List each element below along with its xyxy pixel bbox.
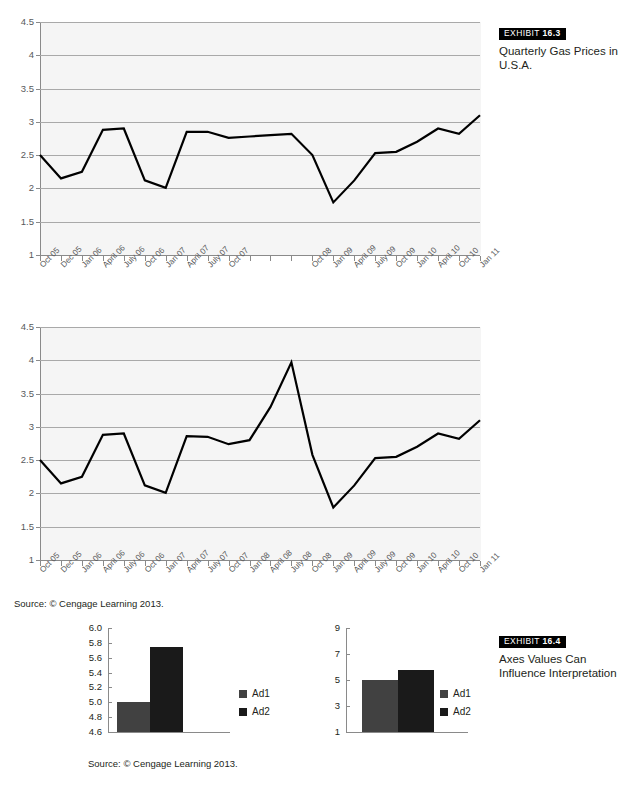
- exhibit-page: EXHIBIT 16.3 Quarterly Gas Prices in U.S…: [0, 0, 635, 785]
- bar1-y-tick-label: 6.0: [78, 623, 102, 633]
- line-chart-quarterly-gas-prices-2: 11.522.533.544.5 Oct 05Dec 05Jan 06April…: [0, 305, 500, 605]
- exhibit-16-3-caption-block: EXHIBIT 16.3 Quarterly Gas Prices in U.S…: [499, 22, 635, 72]
- bar-chart-narrow-horizontal-axis: [108, 732, 230, 733]
- legend-label-ad1: Ad1: [252, 688, 270, 699]
- line-chart-quarterly-gas-prices-1: 11.522.533.544.5 Oct 05Dec 05Jan 06April…: [0, 0, 500, 310]
- legend-wide-axis: Ad1 Ad2: [440, 688, 471, 724]
- bar-chart-wide-vertical-axis: [346, 628, 347, 732]
- exhibit-16-3-caption-text: Quarterly Gas Prices in U.S.A.: [499, 44, 635, 72]
- bar-ad1: [117, 702, 150, 732]
- bar1-y-tick-label: 4.6: [78, 727, 102, 737]
- legend-label-ad2-right: Ad2: [453, 706, 471, 717]
- bar1-y-tick-label: 5.2: [78, 682, 102, 692]
- bar-chart-narrow-axis: 4.64.85.05.25.45.65.86.0: [60, 628, 260, 738]
- legend-narrow-axis: Ad1 Ad2: [239, 688, 270, 724]
- exhibit-16-4-caption-text: Axes Values Can Influence Interpretation: [499, 652, 635, 680]
- source-line-top: Source: © Cengage Learning 2013.: [14, 598, 164, 609]
- chart2-data-line: [0, 305, 500, 605]
- bar2-y-tick-label: 3: [316, 701, 340, 711]
- bar2-y-tick-label: 5: [316, 675, 340, 685]
- legend-item-ad2-right: Ad2: [440, 706, 471, 717]
- legend-swatch-ad1-right: [440, 690, 448, 698]
- bar-chart-wide-horizontal-axis: [346, 732, 468, 733]
- legend-label-ad2: Ad2: [252, 706, 270, 717]
- bar-ad2: [398, 670, 434, 732]
- legend-swatch-ad1: [239, 690, 247, 698]
- bar2-y-tick-label: 9: [316, 623, 340, 633]
- legend-item-ad1: Ad1: [239, 688, 270, 699]
- bar-ad1: [362, 680, 398, 732]
- bar1-y-tick-label: 5.0: [78, 697, 102, 707]
- chart1-data-line: [0, 0, 500, 310]
- bar1-y-tick-label: 5.8: [78, 638, 102, 648]
- exhibit-16-3-badge-number: 16.3: [542, 28, 560, 38]
- bar1-y-tick-label: 4.8: [78, 712, 102, 722]
- legend-swatch-ad2-right: [440, 708, 448, 716]
- chart2-polyline: [40, 362, 480, 507]
- bar-ad2: [150, 647, 183, 732]
- legend-swatch-ad2: [239, 708, 247, 716]
- exhibit-16-4-caption-block: EXHIBIT 16.4 Axes Values Can Influence I…: [499, 630, 635, 680]
- legend-item-ad2: Ad2: [239, 706, 270, 717]
- bar1-y-tick-label: 5.4: [78, 668, 102, 678]
- legend-label-ad1-right: Ad1: [453, 688, 471, 699]
- exhibit-16-3-badge-label: EXHIBIT: [504, 28, 540, 38]
- exhibit-16-3-badge: EXHIBIT 16.3: [499, 28, 566, 40]
- bar2-y-tick-label: 7: [316, 649, 340, 659]
- legend-item-ad1-right: Ad1: [440, 688, 471, 699]
- chart1-polyline: [40, 115, 480, 202]
- bar1-y-tick-label: 5.6: [78, 653, 102, 663]
- bar-chart-narrow-vertical-axis: [108, 628, 109, 732]
- bar-chart-wide-axis: 13579: [310, 628, 510, 738]
- bar2-y-tick-label: 1: [316, 727, 340, 737]
- exhibit-16-4-badge-number: 16.4: [542, 636, 560, 646]
- source-line-bottom: Source: © Cengage Learning 2013.: [88, 758, 238, 769]
